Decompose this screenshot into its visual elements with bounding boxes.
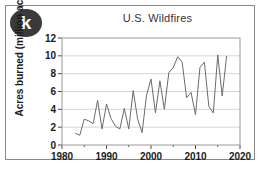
figure-panel: k U.S. Wildfires Acres burned (million a… — [0, 0, 260, 176]
x-tick-label: 2020 — [229, 151, 252, 162]
y-tick-label: 8 — [50, 68, 56, 79]
x-tick-labels: 19801990200020102020 — [51, 151, 252, 162]
y-tick-label: 12 — [45, 33, 57, 44]
axis-ticks — [58, 38, 240, 149]
y-tick-label: 6 — [50, 86, 56, 97]
x-tick-label: 2000 — [140, 151, 163, 162]
y-tick-label: 4 — [50, 104, 56, 115]
y-tick-label: 0 — [50, 140, 56, 151]
y-tick-label: 2 — [50, 122, 56, 133]
y-tick-labels: 024681012 — [45, 33, 57, 151]
x-tick-label: 2010 — [184, 151, 207, 162]
x-tick-label: 1980 — [51, 151, 74, 162]
line-chart-plot: 024681012 19801990200020102020 — [0, 0, 260, 176]
y-tick-label: 10 — [45, 50, 57, 61]
gridlines — [62, 56, 240, 127]
x-tick-label: 1990 — [95, 151, 118, 162]
data-series-line — [75, 55, 226, 135]
